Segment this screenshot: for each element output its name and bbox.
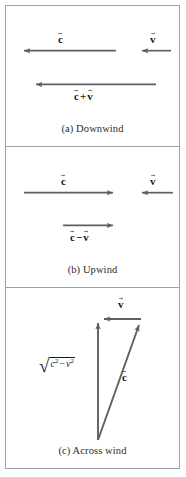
v-vector-label: v: [118, 299, 124, 310]
c-vector-label: c: [61, 176, 66, 187]
exponent-second: 2: [70, 357, 73, 364]
panel-upwind: c v c−v (b) Upwind: [6, 147, 179, 288]
wind-vector-figure: c v c+v (a) Downwind c v c−v (b) Upwind: [0, 0, 186, 477]
panel-downwind: c v c+v (a) Downwind: [6, 6, 179, 147]
radical-operator: −: [58, 358, 66, 369]
c-vector-arrow: [98, 325, 139, 440]
panel-c-caption: (c) Across wind: [6, 445, 179, 456]
radical-sign: √: [39, 355, 49, 376]
c-minus-v-vector-label: c−v: [70, 232, 89, 243]
c-vector-label: c: [122, 372, 127, 383]
v-vector-label: v: [150, 176, 156, 187]
c-vector-label: c: [58, 34, 63, 45]
panel-b-caption: (b) Upwind: [6, 264, 179, 275]
resultant-magnitude-label: √c2−v2: [39, 354, 75, 373]
panel-across-wind: v c √c2−v2 (c) Across wind: [6, 288, 179, 468]
c-plus-v-vector-label: c+v: [74, 91, 93, 102]
panel-c-vectors: [6, 288, 179, 468]
figure-frame: c v c+v (a) Downwind c v c−v (b) Upwind: [5, 5, 180, 469]
panel-a-caption: (a) Downwind: [6, 123, 179, 134]
v-vector-label: v: [150, 34, 156, 45]
